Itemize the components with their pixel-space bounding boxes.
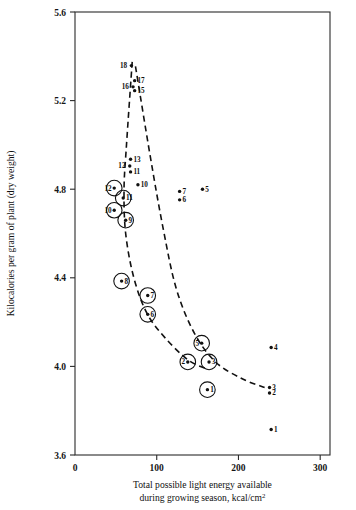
data-point-plain-11: [129, 170, 132, 173]
point-label-plain-4: 4: [274, 344, 278, 352]
y-axis-tick-label: 4.8: [54, 185, 66, 195]
point-label-circled-2: 2: [182, 358, 186, 366]
data-point-plain-10: [136, 183, 139, 186]
point-label-circled-3: 3: [212, 358, 216, 366]
x-axis-tick-label: 300: [313, 463, 328, 473]
point-label-circled-6: 6: [151, 311, 155, 319]
data-point-circled-12: [113, 186, 116, 189]
data-point-plain-18: [130, 64, 133, 67]
point-label-circled-11: 11: [126, 194, 133, 202]
point-label-plain-2: 2: [272, 389, 276, 397]
x-axis-tick-label: 100: [150, 463, 165, 473]
y-axis-tick-label: 4.0: [54, 362, 66, 372]
data-point-circled-8: [120, 279, 123, 282]
data-point-circled-6: [146, 313, 149, 316]
x-axis-title-line2: during growing season, kcal/cm2: [140, 492, 267, 504]
data-point-plain-3: [268, 386, 271, 389]
y-axis-tick-label: 3.6: [54, 451, 66, 461]
data-point-circled-1: [206, 388, 209, 391]
point-label-plain-12: 12: [118, 162, 126, 170]
point-label-plain-15: 15: [137, 87, 145, 95]
point-label-circled-12: 12: [104, 185, 112, 193]
point-label-plain-6: 6: [182, 196, 186, 204]
point-label-plain-1: 1: [274, 426, 278, 434]
trend-curve-left-dashed-trend: [124, 62, 206, 369]
data-point-circled-7: [146, 294, 149, 297]
x-axis-title-line1: Total possible light energy available: [133, 479, 272, 490]
data-point-plain-4: [269, 346, 272, 349]
x-axis-tick-label: 0: [73, 463, 78, 473]
data-point-circled-2: [186, 360, 189, 363]
data-point-plain-2: [268, 391, 271, 394]
data-point-circled-3: [207, 360, 210, 363]
point-label-circled-9: 9: [128, 217, 132, 225]
point-label-circled-10: 10: [104, 207, 112, 215]
point-label-plain-5: 5: [205, 186, 209, 194]
data-point-plain-1: [269, 428, 272, 431]
point-label-circled-5: 5: [195, 340, 199, 348]
y-axis-tick-label: 4.4: [54, 273, 66, 283]
data-point-circled-5: [200, 341, 203, 344]
data-point-plain-7: [178, 190, 181, 193]
data-point-plain-5: [201, 188, 204, 191]
data-point-plain-16: [131, 85, 134, 88]
scatter-chart-figure: 3.64.04.44.85.25.60100200300Total possib…: [0, 0, 356, 510]
data-point-circled-11: [122, 196, 125, 199]
point-label-plain-11: 11: [133, 168, 140, 176]
y-axis-tick-label: 5.6: [54, 8, 66, 18]
data-point-circled-10: [113, 209, 116, 212]
chart-svg: 3.64.04.44.85.25.60100200300Total possib…: [0, 0, 356, 510]
point-label-plain-10: 10: [141, 181, 149, 189]
data-point-plain-6: [178, 198, 181, 201]
point-label-plain-17: 17: [137, 77, 145, 85]
data-point-plain-13: [129, 158, 132, 161]
plot-frame: [75, 12, 330, 455]
y-axis-title: Kilocalories per gram of plant (dry weig…: [5, 151, 17, 317]
x-axis-tick-label: 200: [231, 463, 246, 473]
point-label-plain-18: 18: [120, 62, 128, 70]
point-label-circled-7: 7: [151, 292, 155, 300]
point-label-plain-13: 13: [133, 156, 141, 164]
data-point-plain-17: [133, 79, 136, 82]
point-label-plain-16: 16: [122, 83, 130, 91]
point-label-circled-8: 8: [124, 278, 128, 286]
y-axis-tick-label: 5.2: [54, 96, 66, 106]
point-label-plain-7: 7: [182, 188, 186, 196]
data-point-plain-15: [133, 89, 136, 92]
data-point-plain-12: [128, 164, 131, 167]
data-point-circled-9: [124, 219, 127, 222]
trend-curve-right-dashed-trend: [135, 66, 264, 387]
point-label-circled-1: 1: [210, 386, 214, 394]
